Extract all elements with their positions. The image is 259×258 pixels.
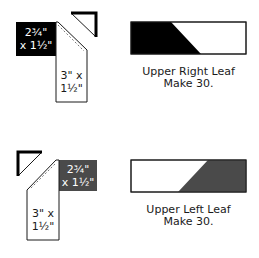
dim-line-2: x 1½" <box>59 176 97 189</box>
dim-line-2: 1½" <box>56 82 87 95</box>
dim-line-1: 3" x <box>56 69 87 82</box>
strip-label: 3" x 1½" <box>56 69 87 95</box>
corner-trim-triangle-icon <box>71 13 96 37</box>
upper-left-leaf-unit <box>131 160 246 192</box>
dim-line-1: 3" x <box>27 207 59 220</box>
dim-line-1: 2¾" <box>59 163 97 176</box>
dim-line-2: 1½" <box>27 220 59 233</box>
dark-rect-label: 2¾" x 1½" <box>16 26 56 52</box>
dim-line-1: 2¾" <box>16 26 56 39</box>
strip-label: 3" x 1½" <box>27 207 59 233</box>
caption-quantity: Make 30. <box>131 216 246 228</box>
caption-upper-right-leaf: Upper Right Leaf Make 30. <box>131 66 246 90</box>
corner-trim-triangle-icon <box>18 152 42 176</box>
caption-quantity: Make 30. <box>131 78 246 90</box>
gray-rect-label: 2¾" x 1½" <box>59 163 97 189</box>
upper-right-leaf-unit <box>131 22 246 54</box>
dim-line-2: x 1½" <box>16 39 56 52</box>
caption-upper-left-leaf: Upper Left Leaf Make 30. <box>131 204 246 228</box>
